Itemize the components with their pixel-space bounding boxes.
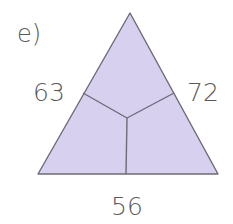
number-triangle-diagram — [0, 0, 233, 224]
divider-bottom — [126, 118, 127, 174]
bottom-side-value: 56 — [111, 194, 143, 219]
left-side-value: 63 — [33, 80, 65, 105]
right-side-value: 72 — [187, 80, 219, 105]
number-triangle-exercise: e) 63 72 56 — [0, 0, 233, 224]
